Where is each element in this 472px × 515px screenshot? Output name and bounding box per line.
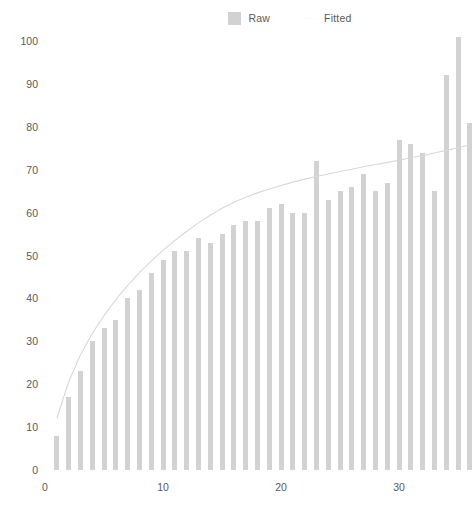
fitted-curve-path <box>57 145 470 419</box>
